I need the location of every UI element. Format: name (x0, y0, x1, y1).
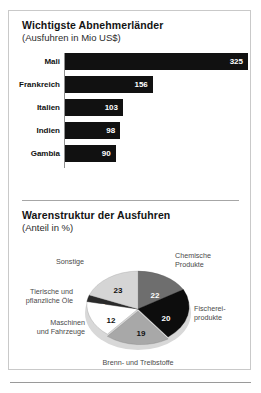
table-row: Indien 98 (9, 122, 252, 139)
bar-track: 325 (65, 53, 248, 70)
bar-mali: 325 (65, 53, 248, 70)
pie-value-maschinen-und-fahrzeuge: 12 (107, 316, 116, 325)
pie-label-line: und Fahrzeuge (9, 327, 85, 336)
table-row: Mali 325 (9, 53, 252, 70)
bar-chart-plot: Mali 325 Frankreich 156 Italien (9, 53, 252, 168)
bar-value-label: 325 (230, 53, 248, 70)
pie-chart-subtitle: (Anteil in %) (22, 222, 252, 234)
bar-category-label: Gambia (0, 145, 60, 162)
pie-chart-svg: 22 20 19 12 5 23 (85, 271, 191, 347)
bar-track: 98 (65, 122, 248, 139)
bar-chart-subtitle: (Ausfuhren in Mio US$) (22, 32, 252, 44)
bar-value-label: 90 (102, 145, 116, 162)
pie-label-line: produkte (194, 313, 226, 322)
infographic-card: Wichtigste Abnehmerländer (Ausfuhren in … (8, 10, 251, 370)
bar-value-label: 103 (105, 99, 123, 116)
bar-value-label: 98 (106, 122, 120, 139)
bar-category-label: Frankreich (0, 76, 60, 93)
bar-chart-title: Wichtigste Abnehmerländer (22, 19, 252, 32)
bar-track: 90 (65, 145, 248, 162)
pie-label-chemische-produkte: Chemische Produkte (175, 251, 211, 269)
bar-chart-panel: Wichtigste Abnehmerländer (Ausfuhren in … (9, 19, 252, 168)
bar-gambia: 90 (65, 145, 116, 162)
pie-label-sonstige: Sonstige (42, 257, 98, 266)
bar-indien: 98 (65, 122, 120, 139)
bar-chart-header: Wichtigste Abnehmerländer (Ausfuhren in … (9, 19, 252, 44)
pie-chart-plot: 22 20 19 12 5 23 Chemische Produkte Fisc… (9, 240, 252, 382)
table-row: Frankreich 156 (9, 76, 252, 93)
pie-chart-title: Warenstruktur der Ausfuhren (22, 209, 252, 222)
pie-label-line: Sonstige (42, 257, 98, 266)
bar-track: 156 (65, 76, 248, 93)
pie-label-line: pflanzliche Öle (9, 296, 73, 305)
bar-frankreich: 156 (65, 76, 153, 93)
pie-label-line: Chemische (175, 251, 211, 260)
bar-italien: 103 (65, 99, 123, 116)
pie-value-brenn-und-treibstoffe: 19 (137, 329, 146, 338)
pie-value-chemische-produkte: 22 (151, 291, 160, 300)
bar-category-label: Italien (0, 99, 60, 116)
pie-value-sonstige: 23 (114, 286, 123, 295)
pie-chart-header: Warenstruktur der Ausfuhren (Anteil in %… (9, 209, 252, 234)
table-row: Gambia 90 (9, 145, 252, 162)
pie-label-tierische-und-pflanzliche-oele: Tierische und pflanzliche Öle (9, 287, 73, 305)
bar-track: 103 (65, 99, 248, 116)
panel-divider (22, 200, 239, 201)
pie-label-line: Fischerei- (194, 304, 226, 313)
pie-label-line: Produkte (175, 260, 211, 269)
footer-rule (10, 382, 251, 383)
pie-chart-panel: Warenstruktur der Ausfuhren (Anteil in %… (9, 209, 252, 382)
pie-label-line: Brenn- und Treibstoffe (71, 358, 205, 367)
pie-label-line: Maschinen (9, 318, 85, 327)
pie-value-tierische-und-pflanzliche-oele: 5 (101, 302, 106, 311)
bar-category-label: Mali (0, 53, 60, 70)
pie-label-fischerei-produkte: Fischerei- produkte (194, 304, 226, 322)
bar-category-label: Indien (0, 122, 60, 139)
pie-label-maschinen-und-fahrzeuge: Maschinen und Fahrzeuge (9, 318, 85, 336)
bar-value-label: 156 (134, 76, 152, 93)
pie-label-brenn-und-treibstoffe: Brenn- und Treibstoffe (71, 358, 205, 367)
pie-label-line: Tierische und (9, 287, 73, 296)
table-row: Italien 103 (9, 99, 252, 116)
pie-value-fischerei-produkte: 20 (162, 314, 171, 323)
